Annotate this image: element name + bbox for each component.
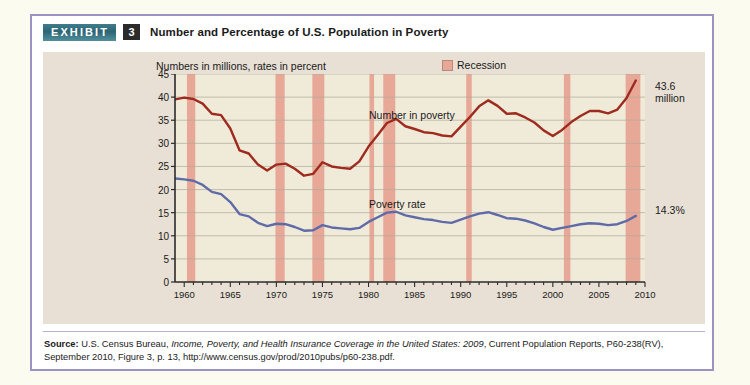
plot-wrapper: 051015202530354045 196019651970197519801… <box>151 74 651 306</box>
recession-band <box>312 74 324 282</box>
y-axis-tick-label: 15 <box>147 207 169 218</box>
recession-band <box>626 74 641 282</box>
recession-band <box>564 74 570 282</box>
x-axis-tick-label: 2000 <box>542 289 563 300</box>
annotation-rate-end: 14.3% <box>655 204 685 216</box>
chart-panel: Numbers in millions, rates in percent Re… <box>43 52 705 324</box>
recession-band <box>187 74 195 282</box>
y-axis-tick-label: 40 <box>147 92 169 103</box>
source-publication-title: Income, Poverty, and Health Insurance Co… <box>171 339 484 349</box>
annotation-number-end: 43.6 million <box>655 80 685 104</box>
x-axis-tick-label: 1960 <box>174 289 195 300</box>
recession-bands <box>187 74 640 282</box>
y-axis-tick-label: 10 <box>147 230 169 241</box>
y-axis-tick-label: 20 <box>147 184 169 195</box>
x-axis-tick-label: 2005 <box>588 289 609 300</box>
x-axis-tick-label: 1980 <box>358 289 379 300</box>
y-axis-tick-label: 30 <box>147 138 169 149</box>
source-text-part1: U.S. Census Bureau, <box>79 339 172 349</box>
x-axis-tick-label: 1965 <box>220 289 241 300</box>
x-axis-tick-label: 2010 <box>634 289 655 300</box>
series-label-poverty-rate: Poverty rate <box>369 198 426 210</box>
chart-subtitle: Numbers in millions, rates in percent <box>156 60 326 72</box>
chart-svg <box>175 74 645 282</box>
exhibit-card: EXHIBIT 3 Number and Percentage of U.S. … <box>30 14 714 371</box>
x-axis-tick-label: 1985 <box>404 289 425 300</box>
y-axis-tick-label: 25 <box>147 161 169 172</box>
plot-area <box>175 74 645 282</box>
y-axis-tick-label: 5 <box>147 253 169 264</box>
x-axis-tick-label: 1975 <box>312 289 333 300</box>
source-note: Source: U.S. Census Bureau, Income, Pove… <box>44 338 704 365</box>
y-axis-tick-label: 45 <box>147 69 169 80</box>
y-axis-tick-label: 35 <box>147 115 169 126</box>
exhibit-number-badge: 3 <box>123 24 140 40</box>
recession-band <box>383 74 395 282</box>
recession-band <box>275 74 284 282</box>
x-axis-tick-label: 1970 <box>266 289 287 300</box>
source-divider <box>43 331 705 332</box>
exhibit-badge: EXHIBIT <box>43 24 116 41</box>
y-axis-tick-label: 0 <box>147 277 169 288</box>
x-axis-tick-label: 1990 <box>450 289 471 300</box>
x-axis-tick-label: 1995 <box>496 289 517 300</box>
legend-label-recession: Recession <box>457 59 506 71</box>
grid-lines <box>175 74 645 259</box>
exhibit-header: EXHIBIT 3 Number and Percentage of U.S. … <box>32 16 712 48</box>
series-label-number-in-poverty: Number in poverty <box>369 109 455 121</box>
chart-legend: Recession <box>442 59 506 71</box>
source-label: Source: <box>44 339 79 349</box>
page-title: Number and Percentage of U.S. Population… <box>150 26 448 38</box>
recession-band <box>369 74 374 282</box>
recession-swatch-icon <box>442 60 453 71</box>
recession-band <box>466 74 472 282</box>
